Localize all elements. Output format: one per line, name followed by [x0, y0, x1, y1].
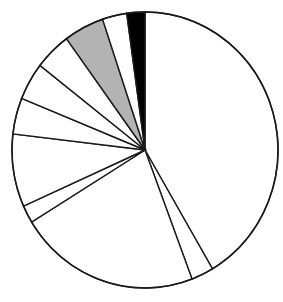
- pie-chart-figure: [0, 0, 283, 302]
- pie-slices-group: [12, 12, 278, 288]
- pie-chart-svg: [0, 0, 283, 302]
